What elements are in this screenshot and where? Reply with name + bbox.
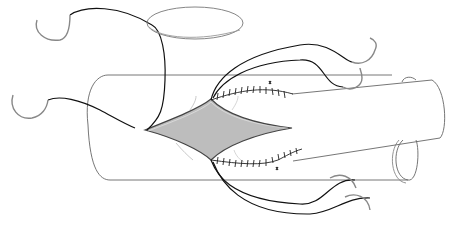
arteriotomy (145, 96, 292, 162)
upper-running-suture (211, 81, 293, 100)
needle-icon (345, 195, 370, 210)
diagram-svg (0, 0, 449, 237)
lower-running-suture (211, 148, 302, 170)
vessel-loop (147, 7, 243, 39)
needle-icon (343, 68, 362, 89)
oblique-vessel (292, 77, 445, 161)
needle-icon (36, 15, 70, 40)
needle-icon (12, 95, 48, 118)
anastomosis-diagram: Vascular end-to-side anastomosis illustr… (0, 0, 449, 237)
needle-icon (352, 38, 376, 63)
